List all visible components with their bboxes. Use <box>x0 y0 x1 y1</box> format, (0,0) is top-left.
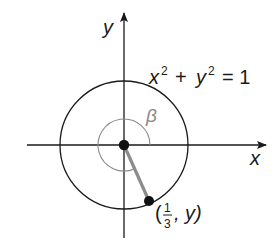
angle-label-beta: β <box>145 105 157 126</box>
circle-equation: x 2 + y 2 = 1 <box>148 64 250 88</box>
svg-text:+: + <box>175 66 187 88</box>
svg-text:, y): , y) <box>174 202 202 224</box>
svg-text:x: x <box>148 66 160 88</box>
circle-point <box>144 196 154 206</box>
svg-text:y: y <box>194 66 207 88</box>
unit-circle-diagram: y x x 2 + y 2 = 1 β ( 1 3 , y) <box>0 0 276 249</box>
svg-text:= 1: = 1 <box>222 66 250 88</box>
radius-segment <box>124 145 149 201</box>
point-label: ( 1 3 , y) <box>155 201 202 231</box>
x-axis-label: x <box>249 147 261 169</box>
svg-text:(: ( <box>155 202 162 224</box>
origin-point <box>119 140 129 150</box>
y-axis-label: y <box>101 16 114 38</box>
svg-text:2: 2 <box>161 64 168 78</box>
svg-text:2: 2 <box>208 64 215 78</box>
svg-text:1: 1 <box>164 201 171 215</box>
svg-text:3: 3 <box>164 217 171 231</box>
